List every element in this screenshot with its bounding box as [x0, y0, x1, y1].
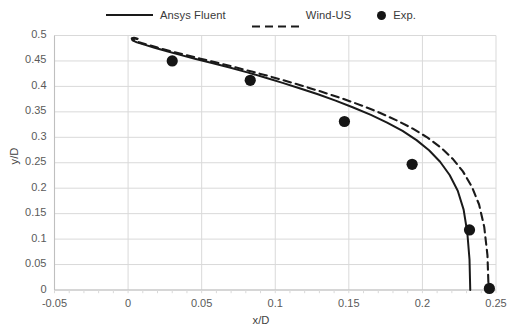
data-point-marker — [484, 283, 495, 294]
series-curve-ansys-fluent — [132, 38, 470, 290]
y-tick-label: 0.1 — [3, 232, 47, 244]
data-point-marker — [245, 75, 256, 86]
y-axis-title: y/D — [8, 126, 20, 186]
y-tick-label: 0.5 — [3, 28, 47, 40]
data-point-marker — [167, 55, 178, 66]
experimental-data-points — [167, 55, 495, 294]
x-tick-label: 0 — [98, 297, 158, 309]
chart-container: Ansys Fluent Wind-US Exp. 00.050.10.150.… — [0, 0, 522, 336]
y-tick-label: 0.45 — [3, 53, 47, 65]
data-point-marker — [407, 159, 418, 170]
y-tick-label: 0.15 — [3, 206, 47, 218]
x-tick-label: 0.1 — [245, 297, 305, 309]
x-tick-label: -0.05 — [25, 297, 85, 309]
data-point-marker — [464, 224, 475, 235]
x-axis-title: x/D — [0, 314, 522, 326]
series-curves — [132, 38, 489, 290]
x-tick-label: 0.15 — [319, 297, 379, 309]
x-tick-label: 0.25 — [466, 297, 522, 309]
x-tick-label: 0.2 — [392, 297, 452, 309]
plot-area — [0, 0, 522, 336]
x-tick-label: 0.05 — [172, 297, 232, 309]
series-curve-wind-us — [132, 38, 488, 290]
y-tick-label: 0.35 — [3, 104, 47, 116]
y-tick-label: 0.05 — [3, 257, 47, 269]
y-tick-label: 0.4 — [3, 79, 47, 91]
data-point-marker — [339, 116, 350, 127]
y-tick-label: 0 — [3, 283, 47, 295]
